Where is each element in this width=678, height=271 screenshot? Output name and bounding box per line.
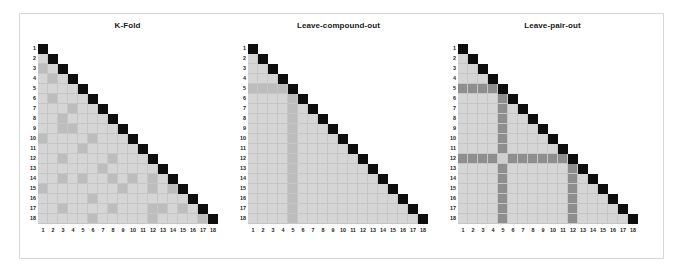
y-tick-label: 17 <box>450 206 456 211</box>
heatmap-cell <box>478 194 488 204</box>
heatmap-cell <box>118 204 128 214</box>
heatmap-cell <box>338 214 348 224</box>
heatmap-cell <box>518 134 528 144</box>
y-tick-label: 2 <box>453 56 456 61</box>
heatmap-cell <box>258 184 268 194</box>
heatmap-cell <box>478 134 488 144</box>
heatmap-cell <box>548 144 558 154</box>
heatmap-cell <box>38 214 48 224</box>
heatmap-cell <box>458 104 468 114</box>
x-tick-label: 12 <box>570 228 576 233</box>
heatmap-cell <box>248 194 258 204</box>
y-tick-label: 6 <box>453 96 456 101</box>
y-tick-label: 9 <box>453 126 456 131</box>
heatmap-cell <box>308 184 318 194</box>
heatmap-cell <box>278 84 288 94</box>
x-tick-label: 14 <box>170 228 176 233</box>
heatmap-cell <box>508 164 518 174</box>
heatmap-cell <box>258 74 268 84</box>
x-tick-label: 17 <box>620 228 626 233</box>
heatmap-cell <box>378 204 388 214</box>
heatmap-cell <box>538 154 548 164</box>
heatmap-cell <box>88 144 98 154</box>
heatmap-cell <box>248 64 258 74</box>
heatmap-cell <box>468 184 478 194</box>
heatmap-cell <box>468 124 478 134</box>
heatmap-cell <box>488 154 498 164</box>
heatmap-cell <box>258 54 268 64</box>
heatmap-cell <box>128 194 138 204</box>
y-axis-labels: 123456789101112131415161718 <box>22 44 36 224</box>
heatmap-cell <box>508 134 518 144</box>
heatmap-cell <box>398 194 408 204</box>
heatmap-cell <box>138 174 148 184</box>
heatmap-cell <box>608 214 618 224</box>
heatmap-cell <box>78 194 88 204</box>
heatmap-cell <box>468 154 478 164</box>
heatmap-cell <box>478 164 488 174</box>
heatmap-cell <box>298 164 308 174</box>
heatmap-cell <box>98 114 108 124</box>
heatmap-cell <box>128 184 138 194</box>
heatmap-cell <box>288 194 298 204</box>
heatmap-cell <box>268 104 278 114</box>
heatmap-cell <box>98 154 108 164</box>
y-tick-label: 18 <box>450 216 456 221</box>
heatmap-cell <box>478 64 488 74</box>
heatmap-cell <box>68 134 78 144</box>
heatmap-cell <box>568 164 578 174</box>
heatmap-cell <box>378 174 388 184</box>
y-tick-label: 17 <box>30 206 36 211</box>
heatmap-cell <box>48 64 58 74</box>
y-tick-label: 14 <box>30 176 36 181</box>
heatmap-cell <box>488 184 498 194</box>
heatmap-cell <box>48 104 58 114</box>
heatmap-cell <box>578 214 588 224</box>
heatmap-cell <box>408 214 418 224</box>
heatmap-cell <box>278 114 288 124</box>
heatmap-cell <box>398 214 408 224</box>
heatmap-cell <box>328 174 338 184</box>
heatmap-cell <box>38 174 48 184</box>
heatmap-cell <box>538 184 548 194</box>
heatmap-cell <box>338 174 348 184</box>
heatmap-cell <box>178 204 188 214</box>
heatmap-cell <box>288 214 298 224</box>
heatmap-cell <box>338 144 348 154</box>
heatmap-cell <box>518 144 528 154</box>
heatmap-cell <box>488 114 498 124</box>
heatmap-cell <box>348 204 358 214</box>
heatmap-cell <box>328 214 338 224</box>
heatmap-cell <box>508 214 518 224</box>
heatmap-cell <box>498 164 508 174</box>
heatmap-cell <box>498 94 508 104</box>
y-tick-label: 1 <box>33 46 36 51</box>
heatmap-cell <box>58 114 68 124</box>
heatmap-cell <box>598 204 608 214</box>
heatmap-cell <box>328 164 338 174</box>
x-tick-label: 4 <box>282 228 285 233</box>
heatmap-cell <box>108 144 118 154</box>
x-tick-label: 5 <box>82 228 85 233</box>
heatmap-cell <box>98 144 108 154</box>
heatmap-cell <box>308 164 318 174</box>
heatmap-cell <box>248 214 258 224</box>
heatmap-cell <box>468 74 478 84</box>
heatmap-cell <box>78 134 88 144</box>
heatmap-cell <box>328 134 338 144</box>
heatmap-cell <box>58 214 68 224</box>
heatmap-cell <box>488 174 498 184</box>
heatmap-cell <box>278 134 288 144</box>
heatmap-cell <box>298 94 308 104</box>
heatmap-cell <box>608 204 618 214</box>
heatmap-cell <box>108 124 118 134</box>
heatmap-cell <box>318 204 328 214</box>
heatmap-cell <box>628 214 638 224</box>
heatmap-cell <box>108 134 118 144</box>
x-tick-label: 2 <box>472 228 475 233</box>
heatmap-cell <box>308 144 318 154</box>
heatmap-cell <box>148 184 158 194</box>
x-axis-labels: 123456789101112131415161718 <box>38 228 218 238</box>
heatmap-cell <box>278 104 288 114</box>
heatmap-cell <box>268 124 278 134</box>
